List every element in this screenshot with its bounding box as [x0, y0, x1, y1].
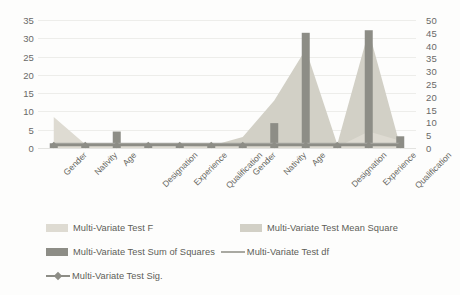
y-tick-right: 10: [426, 117, 437, 128]
legend-label-sum-of-squares: Multi-Variate Test Sum of Squares: [73, 247, 215, 257]
y-tick-left: 5: [29, 124, 34, 135]
y-tick-left: 15: [23, 88, 34, 99]
bar-sum-of-squares: [302, 33, 310, 148]
y-tick-right: 45: [426, 27, 437, 38]
legend-row-1: Multi-Variate Test F: [46, 221, 153, 235]
y-tick-right: 5: [426, 130, 431, 141]
y-tick-right: 20: [426, 91, 437, 102]
legend-label-df: Multi-Variate Test df: [247, 247, 329, 257]
legend-row-3: Multi-Variate Test Sig.: [46, 269, 163, 283]
legend-swatch-test-f: [46, 224, 68, 232]
legend-item-df[interactable]: Multi-Variate Test df: [221, 247, 329, 257]
x-axis-label: Age: [120, 150, 138, 168]
legend-label-mean-square: Multi-Variate Test Mean Square: [267, 223, 398, 233]
y-tick-left: 20: [23, 69, 34, 80]
x-axis-label: Age: [309, 150, 327, 168]
y-tick-left: 10: [23, 106, 34, 117]
chart-container: 05101520253035 05101520253035404550 Gend…: [0, 0, 460, 295]
y-tick-left: 30: [23, 33, 34, 44]
legend-item-test-f[interactable]: Multi-Variate Test F: [46, 223, 153, 233]
y-tick-right: 15: [426, 104, 437, 115]
legend-swatch-sum-of-squares: [46, 248, 68, 256]
legend-swatch-mean-square: [240, 224, 262, 232]
legend-item-sig[interactable]: Multi-Variate Test Sig.: [46, 271, 163, 281]
x-axis-label: Gender: [61, 150, 88, 177]
y-tick-right: 0: [426, 143, 431, 154]
gridline: [38, 148, 416, 149]
y-tick-left: 25: [23, 51, 34, 62]
legend-label-sig: Multi-Variate Test Sig.: [72, 271, 163, 281]
x-axis-labels: GenderNativityAgeDesignationExperienceQu…: [38, 150, 416, 212]
x-axis-label: Nativity: [282, 150, 309, 177]
y-tick-right: 35: [426, 53, 437, 64]
chart-legend: Multi-Variate Test F Multi-Variate Test …: [0, 216, 460, 295]
legend-label-test-f: Multi-Variate Test F: [73, 223, 153, 233]
plot-area: [38, 20, 416, 148]
legend-item-sum-of-squares[interactable]: Multi-Variate Test Sum of Squares: [46, 247, 215, 257]
y-tick-right: 25: [426, 79, 437, 90]
bar-sum-of-squares: [365, 30, 373, 148]
y-tick-left: 0: [29, 143, 34, 154]
diamond-marker-icon: [54, 272, 62, 280]
x-axis-label: Nativity: [93, 150, 120, 177]
legend-row-1b: Multi-Variate Test Mean Square: [240, 221, 398, 235]
legend-row-2: Multi-Variate Test Sum of Squares Multi-…: [46, 245, 329, 259]
legend-line-marker-sig: [46, 272, 70, 280]
plot-region: 05101520253035 05101520253035404550 Gend…: [0, 0, 460, 215]
y-tick-right: 50: [426, 15, 437, 26]
x-axis-label: Qualification: [413, 150, 454, 191]
area-series-mean-square: [54, 31, 401, 148]
series-layer: [38, 20, 416, 148]
y-tick-left: 35: [23, 15, 34, 26]
legend-line-df: [221, 248, 245, 256]
legend-item-mean-square[interactable]: Multi-Variate Test Mean Square: [240, 223, 398, 233]
y-tick-right: 40: [426, 40, 437, 51]
y-tick-right: 30: [426, 66, 437, 77]
